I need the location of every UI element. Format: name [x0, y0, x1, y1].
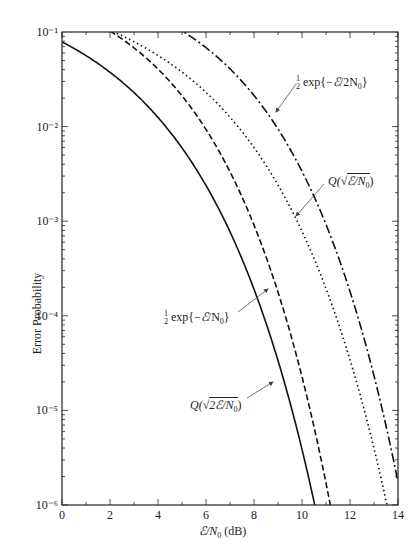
annotation-q-sqrt-e-n0: Q(√ℰ/N0): [328, 174, 374, 190]
curve-dotted: [62, 13, 398, 545]
annotation-arrow: [247, 382, 273, 398]
x-tick-label: 2: [107, 508, 113, 522]
x-tick-label: 6: [203, 508, 209, 522]
plot-frame: [62, 32, 398, 505]
annotation-arrows: [238, 84, 324, 398]
x-tick-label: 8: [251, 508, 257, 522]
x-tick-label: 14: [392, 508, 404, 522]
y-tick-label: 10⁻¹: [36, 25, 58, 39]
annotation-half-exp-2n0: 12 exp{−ℰ/2N0}: [296, 75, 368, 91]
x-tick-label: 10: [296, 508, 308, 522]
y-tick-label: 10⁻⁶: [36, 498, 58, 512]
annotation-half-exp-n0: 12 exp{−ℰ/N0}: [164, 310, 230, 326]
x-tick-label: 4: [155, 508, 161, 522]
x-axis-label: ℰ/N0 (dB): [199, 524, 246, 540]
axes-group: 0246810121410⁻⁶10⁻⁵10⁻⁴10⁻³10⁻²10⁻¹: [36, 25, 404, 522]
y-tick-label: 10⁻⁵: [36, 403, 58, 417]
y-axis-label: Error Probability: [30, 259, 45, 369]
annotation-arrow: [276, 84, 296, 112]
annotation-arrow: [238, 289, 268, 312]
y-tick-label: 10⁻²: [36, 120, 58, 134]
annotation-q-sqrt-2e-n0: Q(√2ℰ/N0): [190, 398, 242, 414]
y-tick-label: 10⁻³: [36, 214, 58, 228]
x-tick-label: 0: [59, 508, 65, 522]
x-tick-label: 12: [344, 508, 356, 522]
curve-solid: [62, 42, 398, 545]
